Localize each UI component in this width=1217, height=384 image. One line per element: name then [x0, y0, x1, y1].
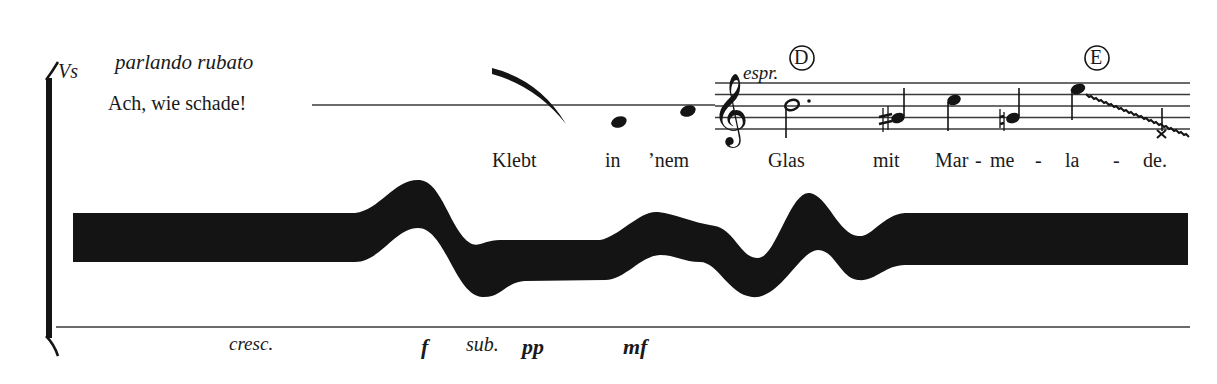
- lyric-syllable: Mar: [935, 149, 968, 172]
- dynamic-mezzoforte: mf: [623, 334, 647, 360]
- dynamic-pianissimo: pp: [522, 334, 544, 360]
- lyric-syllable: in: [605, 149, 621, 172]
- system-bracket: [46, 62, 58, 356]
- lyric-hyphen: -: [1035, 149, 1042, 172]
- cresc-direction: cresc.: [229, 333, 273, 355]
- spoken-text: Ach, wie schade!: [108, 92, 246, 115]
- lyric-syllable: Glas: [768, 149, 805, 172]
- rehearsal-mark-d: D: [794, 46, 808, 69]
- lyric-syllable: Klebt: [492, 149, 536, 172]
- lyric-syllable: la: [1065, 149, 1079, 172]
- espressivo-direction: espr.: [743, 62, 778, 84]
- sound-band: [73, 180, 1188, 297]
- lyric-hyphen: -: [975, 149, 982, 172]
- tempo-direction: parlando rubato: [115, 50, 253, 75]
- lyric-syllable: ’nem: [648, 149, 689, 172]
- lyric-syllable: de.: [1143, 149, 1167, 172]
- dynamic-subito: sub.: [466, 333, 499, 356]
- glide-stroke: [492, 68, 566, 124]
- dynamic-forte: f: [421, 334, 428, 360]
- part-label: Vs: [58, 60, 78, 83]
- lyric-hyphen: -: [1113, 149, 1120, 172]
- lyric-syllable: mit: [873, 149, 900, 172]
- lyric-syllable: me: [990, 149, 1014, 172]
- rehearsal-mark-e: E: [1090, 46, 1102, 69]
- speech-notehead: [610, 114, 629, 130]
